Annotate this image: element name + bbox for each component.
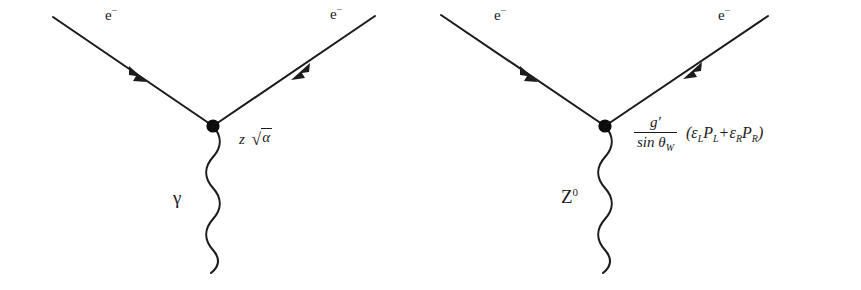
z-coupling-label: g′ sin θW (εLPL+εRPR): [634, 114, 763, 151]
plus-operator: +: [719, 124, 730, 141]
incoming-electron-label: e−: [494, 8, 506, 23]
projector-right: P: [742, 124, 752, 141]
projector-left: P: [703, 124, 713, 141]
coupling-radicand: α: [261, 130, 272, 147]
incoming-electron-label: e−: [105, 8, 117, 23]
incoming-electron-symbol: e: [494, 7, 501, 23]
interaction-vertex-dot: [206, 119, 219, 132]
incoming-electron-charge: −: [112, 5, 118, 16]
coupling-fraction: g′ sin θW: [634, 114, 677, 151]
square-root-group: √ α: [252, 130, 272, 147]
outgoing-electron-symbol: e: [330, 6, 337, 22]
outgoing-electron-symbol: e: [718, 7, 725, 23]
coupling-prefactor: z: [239, 132, 245, 147]
chirality-projector-expression: (εLPL+εRPR): [686, 125, 763, 141]
coupling-denominator: sin θW: [634, 133, 677, 151]
denominator-symbol: θ: [658, 134, 665, 150]
denominator-subscript: W: [666, 142, 674, 153]
z-boson-symbol: Z: [561, 186, 573, 207]
outgoing-electron-label: e−: [330, 7, 342, 22]
incoming-electron-charge: −: [501, 5, 507, 16]
close-paren: ): [758, 124, 763, 141]
photon-label: γ: [173, 188, 181, 207]
z-boson-superscript: 0: [573, 186, 579, 198]
photon-coupling-label: z √ α: [239, 130, 272, 147]
radical-sign-icon: √: [252, 131, 261, 148]
denominator-function: sin: [637, 134, 655, 150]
z-boson-label: Z0: [561, 187, 578, 206]
outgoing-electron-charge: −: [337, 4, 343, 15]
photon-symbol: γ: [173, 187, 181, 208]
outgoing-electron-charge: −: [725, 5, 731, 16]
interaction-vertex-dot: [598, 119, 611, 132]
outgoing-electron-label: e−: [718, 8, 730, 23]
incoming-electron-symbol: e: [105, 7, 112, 23]
projector-left-subscript: L: [713, 134, 719, 145]
coupling-numerator: g′: [646, 114, 665, 132]
